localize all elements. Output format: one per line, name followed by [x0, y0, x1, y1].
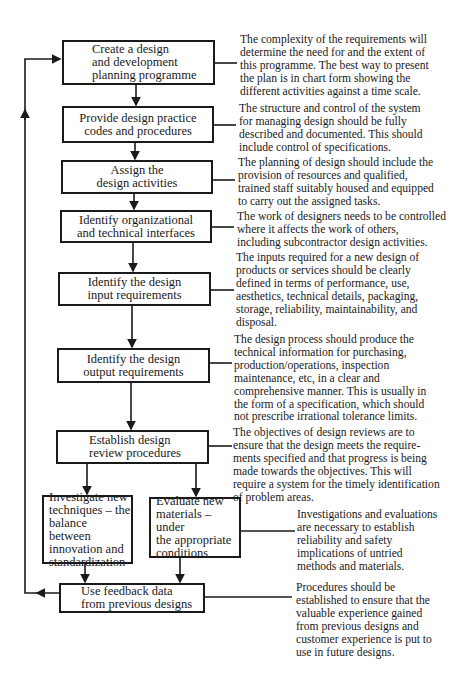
note-planning-programme: The complexity of the requirements will … — [240, 34, 429, 99]
step-create-planning-programme: Create a design and development planning… — [62, 40, 215, 85]
step-evaluate-new-materials: Evaluate new materials – under the appro… — [149, 497, 241, 558]
note-identify-interfaces: The work of designers needs to be contro… — [237, 211, 446, 250]
step-label: Investigate new techniques – the balance… — [44, 491, 131, 569]
step-label: Use feedback data from previous designs — [61, 585, 192, 611]
note-assign-design-activities: The planning of design should include th… — [238, 157, 434, 209]
step-investigate-new-techniques: Investigate new techniques – the balance… — [42, 495, 133, 564]
note-design-practice-codes: The structure and control of the system … — [239, 103, 423, 155]
step-label: Provide design practice codes and proced… — [64, 112, 212, 138]
note-design-review-procedures: The objectives of design reviews are to … — [233, 427, 440, 504]
note-evaluate-new-materials: Investigations and evaluations are neces… — [297, 509, 437, 574]
step-assign-design-activities: Assign the design activities — [61, 160, 213, 194]
note-use-feedback-data: Procedures should be established to ensu… — [296, 582, 432, 659]
note-design-output-requirements: The design process should produce the te… — [234, 334, 426, 424]
step-label: Identify the design output requirements — [59, 353, 208, 379]
step-design-input-requirements: Identify the design input requirements — [58, 272, 211, 306]
step-label: Identify organizational and technical in… — [62, 214, 210, 240]
step-label: Assign the design activities — [63, 164, 211, 190]
step-design-review-procedures: Establish design review procedures — [56, 430, 209, 464]
note-design-input-requirements: The inputs required for a new design of … — [236, 252, 419, 329]
step-design-output-requirements: Identify the design output requirements — [57, 348, 210, 383]
step-design-practice-codes: Provide design practice codes and proced… — [62, 106, 214, 143]
step-label: Create a design and development planning… — [64, 43, 197, 82]
step-label: Identify the design input requirements — [60, 276, 209, 302]
step-identify-interfaces: Identify organizational and technical in… — [60, 210, 212, 243]
step-label: Establish design review procedures — [58, 434, 181, 460]
step-use-feedback-data: Use feedback data from previous designs — [59, 583, 205, 613]
design-control-flowchart: Create a design and development planning… — [0, 0, 471, 686]
step-label: Evaluate new materials – under the appro… — [151, 495, 239, 560]
